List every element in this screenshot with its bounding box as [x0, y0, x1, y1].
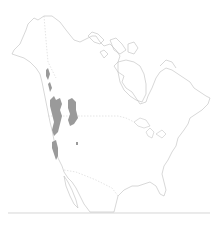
species-range	[46, 68, 78, 160]
continent-outline	[12, 16, 210, 212]
alaska-canada-border	[44, 16, 56, 78]
great-lakes-outline	[134, 118, 166, 138]
us-mexico-border	[64, 170, 118, 196]
range-map	[0, 0, 224, 239]
labrador-outline	[160, 60, 176, 68]
